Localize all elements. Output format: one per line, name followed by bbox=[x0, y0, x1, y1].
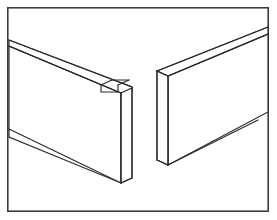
joint-drawing-svg bbox=[0, 0, 277, 220]
right-board-end-face bbox=[157, 71, 168, 165]
figure-root: Rabbet joint boards isometric line drawi… bbox=[0, 0, 277, 220]
left-board-end-face bbox=[121, 88, 132, 183]
